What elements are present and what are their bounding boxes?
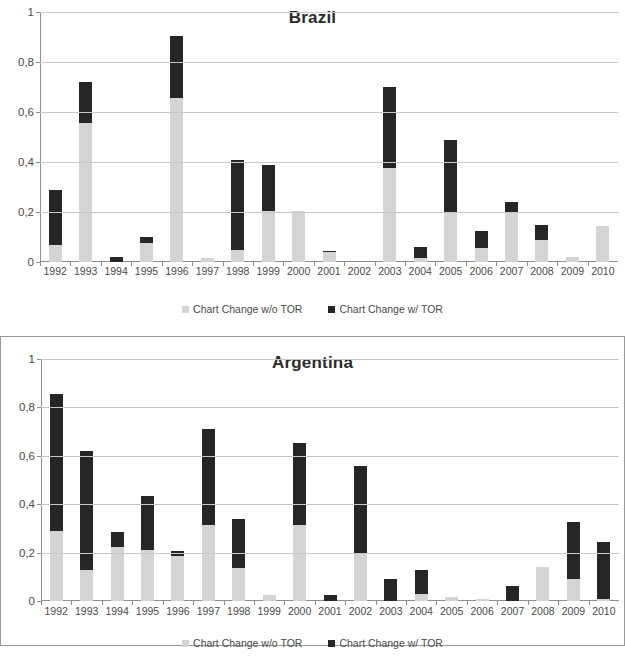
bar-segment-with-tor[interactable] (444, 140, 457, 213)
bar-segment-without-tor[interactable] (535, 240, 548, 263)
bar-column[interactable] (376, 359, 406, 601)
bar-segment-with-tor[interactable] (354, 466, 367, 553)
stacked-bar[interactable] (444, 140, 457, 263)
bar-column[interactable] (405, 12, 435, 262)
bar-column[interactable] (497, 359, 527, 601)
bar-segment-with-tor[interactable] (597, 542, 610, 599)
stacked-bar[interactable] (50, 394, 63, 601)
bar-segment-without-tor[interactable] (383, 168, 396, 262)
bar-segment-without-tor[interactable] (232, 568, 245, 601)
bar-column[interactable] (284, 359, 314, 601)
bar-column[interactable] (163, 359, 193, 601)
bar-segment-without-tor[interactable] (354, 553, 367, 601)
stacked-bar[interactable] (415, 570, 428, 601)
bar-segment-without-tor[interactable] (79, 123, 92, 262)
bar-column[interactable] (557, 12, 587, 262)
stacked-bar[interactable] (567, 522, 580, 601)
bar-segment-with-tor[interactable] (202, 429, 215, 525)
bar-segment-without-tor[interactable] (292, 211, 305, 262)
bar-segment-without-tor[interactable] (567, 579, 580, 601)
bar-segment-with-tor[interactable] (383, 87, 396, 168)
bar-segment-without-tor[interactable] (231, 250, 244, 263)
stacked-bar[interactable] (293, 443, 306, 602)
bar-segment-without-tor[interactable] (171, 556, 184, 601)
bar-column[interactable] (193, 359, 223, 601)
stacked-bar[interactable] (535, 225, 548, 263)
bar-segment-with-tor[interactable] (475, 231, 488, 249)
bar-column[interactable] (344, 12, 374, 262)
bar-column[interactable] (436, 359, 466, 601)
bar-column[interactable] (40, 12, 70, 262)
bar-column[interactable] (558, 359, 588, 601)
bar-column[interactable] (589, 359, 619, 601)
bar-column[interactable] (101, 12, 131, 262)
bar-segment-with-tor[interactable] (567, 522, 580, 579)
stacked-bar[interactable] (506, 586, 519, 601)
bar-segment-with-tor[interactable] (231, 160, 244, 250)
bar-segment-without-tor[interactable] (49, 245, 62, 263)
bar-column[interactable] (283, 12, 313, 262)
stacked-bar[interactable] (171, 551, 184, 601)
bar-column[interactable] (41, 359, 71, 601)
stacked-bar[interactable] (475, 231, 488, 262)
stacked-bar[interactable] (536, 567, 549, 601)
bar-segment-with-tor[interactable] (232, 519, 245, 569)
bar-column[interactable] (588, 12, 618, 262)
bar-column[interactable] (527, 12, 557, 262)
stacked-bar[interactable] (232, 519, 245, 601)
bar-segment-without-tor[interactable] (415, 594, 428, 601)
stacked-bar[interactable] (49, 190, 62, 263)
bar-column[interactable] (132, 359, 162, 601)
bar-segment-with-tor[interactable] (415, 570, 428, 594)
stacked-bar[interactable] (262, 165, 275, 263)
bar-segment-without-tor[interactable] (202, 525, 215, 601)
stacked-bar[interactable] (170, 36, 183, 262)
stacked-bar[interactable] (141, 496, 154, 601)
stacked-bar[interactable] (80, 451, 93, 601)
bar-segment-without-tor[interactable] (505, 213, 518, 262)
stacked-bar[interactable] (596, 226, 609, 262)
bar-column[interactable] (467, 359, 497, 601)
bar-segment-with-tor[interactable] (384, 579, 397, 601)
bar-segment-without-tor[interactable] (111, 547, 124, 601)
bar-segment-with-tor[interactable] (262, 165, 275, 211)
bar-column[interactable] (131, 12, 161, 262)
bar-segment-without-tor[interactable] (80, 570, 93, 601)
bar-segment-with-tor[interactable] (535, 225, 548, 240)
stacked-bar[interactable] (505, 202, 518, 262)
bar-column[interactable] (223, 12, 253, 262)
bar-segment-with-tor[interactable] (79, 82, 92, 123)
stacked-bar[interactable] (111, 532, 124, 601)
bar-segment-with-tor[interactable] (50, 394, 63, 531)
bar-column[interactable] (435, 12, 465, 262)
bar-segment-without-tor[interactable] (596, 226, 609, 262)
bar-segment-without-tor[interactable] (141, 550, 154, 601)
bar-column[interactable] (466, 12, 496, 262)
bar-segment-with-tor[interactable] (414, 247, 427, 258)
bar-segment-with-tor[interactable] (506, 586, 519, 601)
bar-segment-without-tor[interactable] (262, 211, 275, 262)
bar-segment-with-tor[interactable] (170, 36, 183, 99)
bar-segment-without-tor[interactable] (536, 567, 549, 601)
bar-column[interactable] (162, 12, 192, 262)
stacked-bar[interactable] (231, 160, 244, 263)
stacked-bar[interactable] (384, 579, 397, 601)
bar-column[interactable] (345, 359, 375, 601)
bar-segment-without-tor[interactable] (170, 98, 183, 262)
bar-column[interactable] (102, 359, 132, 601)
stacked-bar[interactable] (383, 87, 396, 262)
bar-column[interactable] (192, 12, 222, 262)
bar-column[interactable] (375, 12, 405, 262)
bar-column[interactable] (528, 359, 558, 601)
bar-segment-without-tor[interactable] (293, 525, 306, 601)
stacked-bar[interactable] (414, 247, 427, 262)
bar-column[interactable] (254, 359, 284, 601)
stacked-bar[interactable] (140, 237, 153, 262)
bar-column[interactable] (314, 12, 344, 262)
stacked-bar[interactable] (79, 82, 92, 262)
bar-segment-without-tor[interactable] (50, 531, 63, 601)
stacked-bar[interactable] (292, 211, 305, 262)
stacked-bar[interactable] (323, 251, 336, 262)
bar-column[interactable] (253, 12, 283, 262)
bar-segment-without-tor[interactable] (475, 248, 488, 262)
